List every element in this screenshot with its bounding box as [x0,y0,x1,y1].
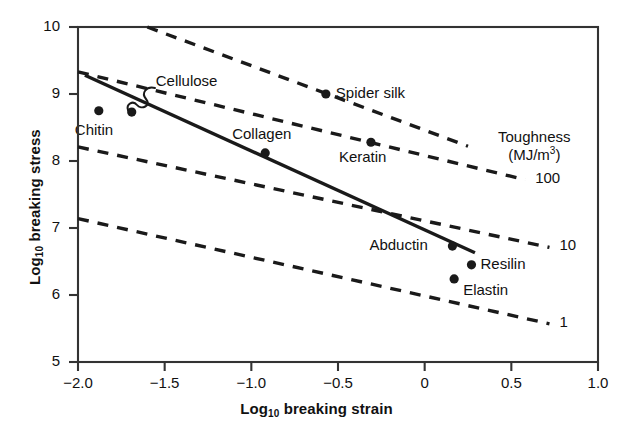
iso-toughness-lines [78,27,549,324]
data-point-chitin [94,106,103,115]
data-point-collagen [261,148,270,157]
data-point-resilin [467,260,476,269]
plot-frame [78,27,598,362]
iso-line-10 [78,147,549,248]
plot-canvas [0,0,633,432]
figure-container: Log10 breaking stress Log10 breaking str… [0,0,633,432]
iso-line-1 [78,219,549,324]
data-point-spider-silk [321,89,330,98]
data-point-keratin [366,138,375,147]
data-points [94,89,476,283]
data-point-abductin [448,241,457,250]
axis-ticks [69,27,598,371]
data-point-elastin [450,274,459,283]
data-point-cellulose [127,107,136,116]
iso-line-top-0 [147,27,468,146]
iso-line-100 [78,72,525,180]
trend-line-solid [85,75,475,253]
trend-line [85,75,475,253]
axis-frame [78,27,598,362]
